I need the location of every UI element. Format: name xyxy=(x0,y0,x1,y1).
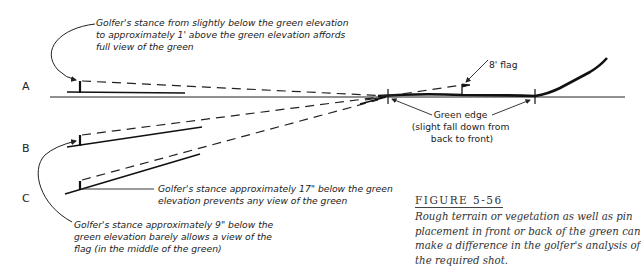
sightline-c xyxy=(82,100,378,180)
sightline-b xyxy=(82,96,388,135)
position-label-a: A xyxy=(22,80,30,93)
caption-line: Rough terrain or vegetation as well as p… xyxy=(415,210,641,225)
stance-a-ground xyxy=(67,92,185,93)
figure-5-56: A B C Golfer's stance xyxy=(0,0,641,276)
figure-title: FIGURE 5-56 xyxy=(415,194,503,208)
annotation-a-text: Golfer's stance from slightly below the … xyxy=(96,17,351,52)
position-label-c: C xyxy=(22,192,30,205)
stance-b-ground xyxy=(67,127,202,147)
annotation-c-text: Golfer's stance approximately 17" below … xyxy=(158,183,396,206)
green-edge-label: Green edge (slight fall down from back t… xyxy=(412,109,513,144)
rough-terrain xyxy=(535,58,607,96)
green-edge-leader-front xyxy=(392,99,432,115)
annotation-b-text: Golfer's stance approximately 9" below t… xyxy=(74,219,276,254)
green-edge-leader-back xyxy=(492,100,530,115)
caption-line: placement in front or back of the green … xyxy=(415,225,641,240)
annotation-b-leader xyxy=(38,141,76,222)
caption-line: the required shot. xyxy=(415,254,641,269)
flag-icon xyxy=(462,84,470,87)
flag-leader xyxy=(466,60,488,82)
annotation-a-leader xyxy=(51,24,95,80)
green-surface xyxy=(378,94,535,96)
position-label-b: B xyxy=(22,142,30,155)
sightline-a-to-front xyxy=(82,81,388,96)
figure-caption: FIGURE 5-56 Rough terrain or vegetation … xyxy=(415,190,641,268)
caption-line: make a difference in the golfer's analys… xyxy=(415,239,641,254)
flag-label: 8' flag xyxy=(489,59,518,70)
figure-caption-text: Rough terrain or vegetation as well as p… xyxy=(415,210,641,268)
